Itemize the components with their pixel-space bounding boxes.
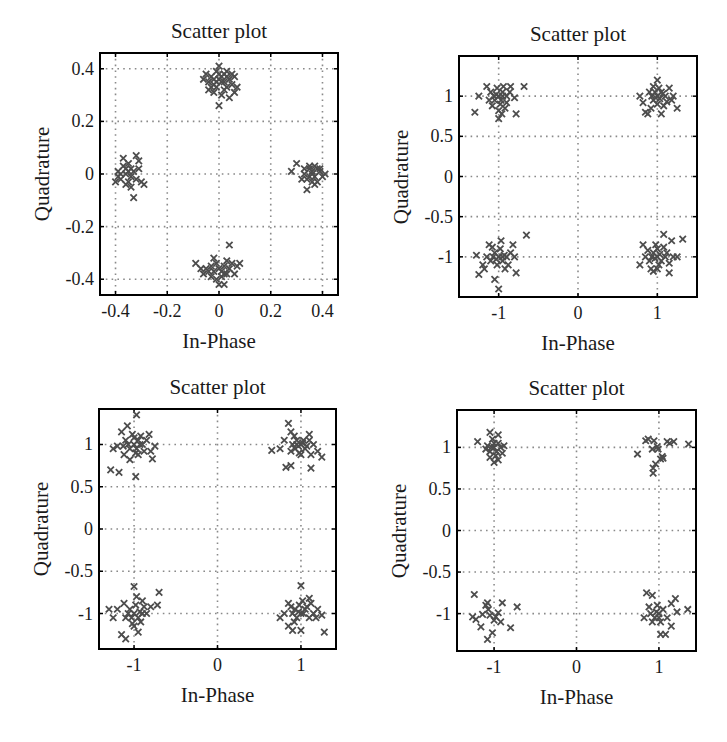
data-markers	[469, 429, 691, 642]
x-marker	[495, 432, 501, 438]
x-marker	[651, 438, 657, 444]
x-marker	[685, 441, 691, 447]
x-marker	[484, 636, 490, 642]
x-marker	[474, 438, 480, 444]
x-marker	[664, 615, 670, 621]
y-tick-label: -1	[436, 603, 451, 624]
x-axis-label: In-Phase	[540, 685, 613, 710]
x-marker	[634, 451, 640, 457]
x-tick-label: 1	[654, 657, 663, 678]
x-marker	[668, 623, 674, 629]
x-marker	[499, 450, 505, 456]
x-marker	[478, 624, 484, 630]
x-marker	[641, 615, 647, 621]
plot-area	[0, 0, 727, 742]
x-marker	[514, 604, 520, 610]
y-tick-label: 0	[442, 520, 451, 541]
y-axis-label: Quadrature	[387, 483, 412, 577]
x-marker	[674, 609, 680, 615]
x-marker	[662, 631, 668, 637]
x-marker	[654, 602, 660, 608]
x-marker	[469, 614, 475, 620]
x-marker	[646, 604, 652, 610]
x-marker	[660, 606, 666, 612]
x-marker	[685, 606, 691, 612]
x-marker	[489, 630, 495, 636]
x-tick-label: -1	[487, 657, 502, 678]
x-tick-label: 0	[572, 657, 581, 678]
x-marker	[497, 619, 503, 625]
y-tick-label: -0.5	[423, 562, 452, 583]
x-marker	[645, 436, 651, 442]
x-marker	[471, 591, 477, 597]
x-marker	[672, 595, 678, 601]
x-marker	[507, 625, 513, 631]
y-tick-label: 0.5	[429, 478, 452, 499]
y-tick-label: 1	[442, 437, 451, 458]
x-marker	[499, 600, 505, 606]
x-marker	[650, 470, 656, 476]
x-marker	[487, 429, 493, 435]
